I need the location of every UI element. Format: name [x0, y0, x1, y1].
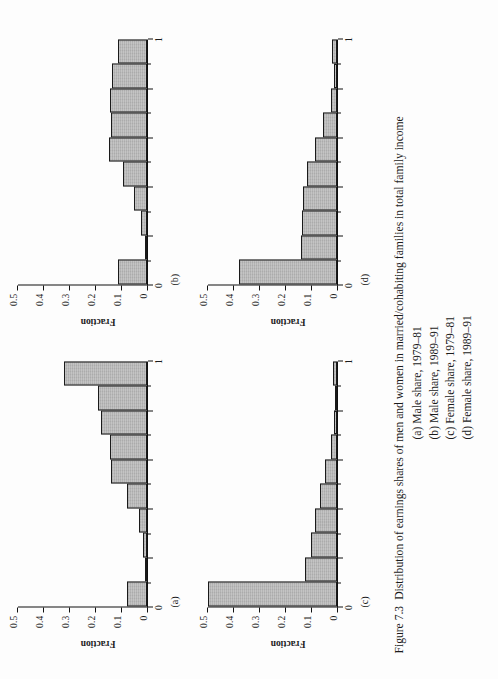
bar-c-3: [315, 508, 337, 533]
y-tick-label-b-5: 0.5: [9, 293, 19, 305]
panel-a-bars: [18, 361, 147, 606]
x-tick-b-4: [148, 186, 153, 187]
y-tick-label-d-1: 0.1: [303, 293, 313, 305]
x-tick-label-a-1: 1: [154, 359, 164, 364]
x-tick-b-6: [148, 137, 153, 138]
figure-number: Figure 7.3: [393, 605, 406, 653]
x-tick-c-2: [338, 557, 343, 558]
subcaption-c: (c) Female share, 1979–81: [443, 29, 459, 439]
bar-c-0: [208, 582, 337, 607]
panel-b: Fraction 00.10.20.30.40.501 (b): [14, 31, 182, 331]
x-tick-c-1: [338, 582, 341, 583]
bar-a-9: [64, 361, 147, 386]
y-tick-b-3: [69, 285, 70, 290]
x-tick-a-4: [148, 508, 153, 509]
y-tick-b-4: [43, 285, 44, 290]
panel-c: Fraction 00.10.20.30.40.501 (c): [204, 353, 372, 653]
bar-c-5: [325, 459, 337, 484]
x-tick-b-3: [148, 211, 151, 212]
bar-a-0: [127, 582, 147, 607]
x-tick-a-6: [148, 459, 153, 460]
panel-c-bars: [208, 361, 337, 606]
bar-d-6: [323, 113, 337, 138]
x-tick-b-2: [148, 235, 153, 236]
bar-c-2: [311, 533, 337, 558]
x-tick-c-8: [338, 410, 343, 411]
caption-main-line: Figure 7.3Distribution of earnings share…: [392, 29, 408, 653]
y-tick-c-3: [259, 607, 260, 612]
caption-subcaption-list: (a) Male share, 1979–81 (b) Male share, …: [410, 29, 476, 653]
y-tick-d-2: [285, 285, 286, 290]
bar-b-0: [118, 260, 147, 285]
x-tick-label-c-1: 1: [344, 359, 354, 364]
x-tick-label-b-1: 1: [154, 37, 164, 42]
y-tick-label-a-0: 0: [139, 615, 149, 620]
figure-caption: Figure 7.3Distribution of earnings share…: [392, 29, 476, 653]
y-tick-d-4: [233, 285, 234, 290]
bar-d-8: [334, 64, 337, 89]
bar-b-8: [112, 64, 147, 89]
panel-grid: Fraction 00.10.20.30.40.501 (a) Fraction: [14, 31, 374, 653]
x-tick-c-6: [338, 459, 343, 460]
x-tick-a-7: [148, 434, 151, 435]
bar-a-7: [101, 410, 147, 435]
x-tick-b-8: [148, 88, 153, 89]
bar-a-2: [143, 533, 147, 558]
bar-d-4: [307, 162, 337, 187]
y-tick-label-b-0: 0: [139, 293, 149, 298]
x-tick-d-0: [338, 285, 343, 286]
x-tick-a-5: [148, 484, 151, 485]
x-tick-b-5: [148, 162, 151, 163]
x-tick-d-10: [338, 39, 343, 40]
bar-b-9: [118, 39, 147, 64]
panel-b-bars: [18, 39, 147, 284]
subcaption-d: (d) Female share, 1989–91: [460, 29, 476, 439]
subcaption-a: (a) Male share, 1979–81: [410, 29, 426, 439]
y-tick-label-a-5: 0.5: [9, 615, 19, 627]
bar-a-3: [139, 508, 147, 533]
y-tick-a-2: [95, 607, 96, 612]
y-tick-label-c-4: 0.4: [225, 615, 235, 627]
x-tick-c-0: [338, 607, 343, 608]
bar-d-7: [331, 88, 337, 113]
y-tick-label-c-0: 0: [329, 615, 339, 620]
bar-a-6: [110, 435, 147, 460]
y-tick-label-c-3: 0.3: [251, 615, 261, 627]
y-tick-a-3: [69, 607, 70, 612]
x-tick-d-9: [338, 63, 341, 64]
bar-a-5: [111, 459, 147, 484]
x-tick-label-d-0: 0: [344, 283, 354, 288]
bar-a-1: [145, 557, 147, 582]
panel-b-ylabel: Fraction: [81, 316, 116, 326]
x-tick-label-b-0: 0: [154, 283, 164, 288]
x-tick-b-10: [148, 39, 153, 40]
bar-b-6: [111, 113, 147, 138]
x-tick-b-9: [148, 63, 151, 64]
x-tick-a-0: [148, 607, 153, 608]
x-tick-a-3: [148, 533, 151, 534]
x-tick-c-10: [338, 361, 343, 362]
figure-page: Fraction 00.10.20.30.40.501 (a) Fraction: [0, 0, 498, 679]
x-tick-d-2: [338, 235, 343, 236]
y-tick-c-1: [311, 607, 312, 612]
y-tick-label-c-5: 0.5: [199, 615, 209, 627]
y-tick-c-4: [233, 607, 234, 612]
x-tick-a-10: [148, 361, 153, 362]
x-tick-b-1: [148, 260, 151, 261]
rotated-page-content: Fraction 00.10.20.30.40.501 (a) Fraction: [0, 0, 498, 679]
x-tick-c-9: [338, 385, 341, 386]
bar-b-2: [141, 211, 147, 236]
panel-b-tag: (b): [169, 273, 180, 285]
bar-d-1: [301, 235, 337, 260]
x-tick-d-3: [338, 211, 341, 212]
bar-d-5: [315, 137, 337, 162]
y-tick-label-a-1: 0.1: [113, 615, 123, 627]
x-tick-b-7: [148, 112, 151, 113]
y-tick-label-a-4: 0.4: [35, 615, 45, 627]
bar-b-7: [110, 88, 147, 113]
y-tick-label-b-2: 0.2: [87, 293, 97, 305]
y-tick-label-a-3: 0.3: [61, 615, 71, 627]
y-tick-c-5: [207, 607, 208, 612]
x-tick-label-d-1: 1: [344, 37, 354, 42]
y-tick-d-1: [311, 285, 312, 290]
